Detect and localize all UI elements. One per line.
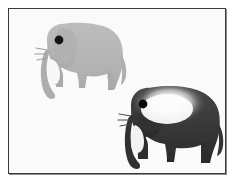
elephant-dark-eye <box>139 100 148 109</box>
image-canvas <box>0 0 236 185</box>
elephant-dark <box>109 79 225 173</box>
picture-frame <box>8 8 226 174</box>
elephant-light-whiskers <box>35 48 47 60</box>
illustration-area <box>9 9 225 173</box>
elephant-light-eye <box>55 36 64 45</box>
elephant-dark-whiskers <box>118 114 131 126</box>
